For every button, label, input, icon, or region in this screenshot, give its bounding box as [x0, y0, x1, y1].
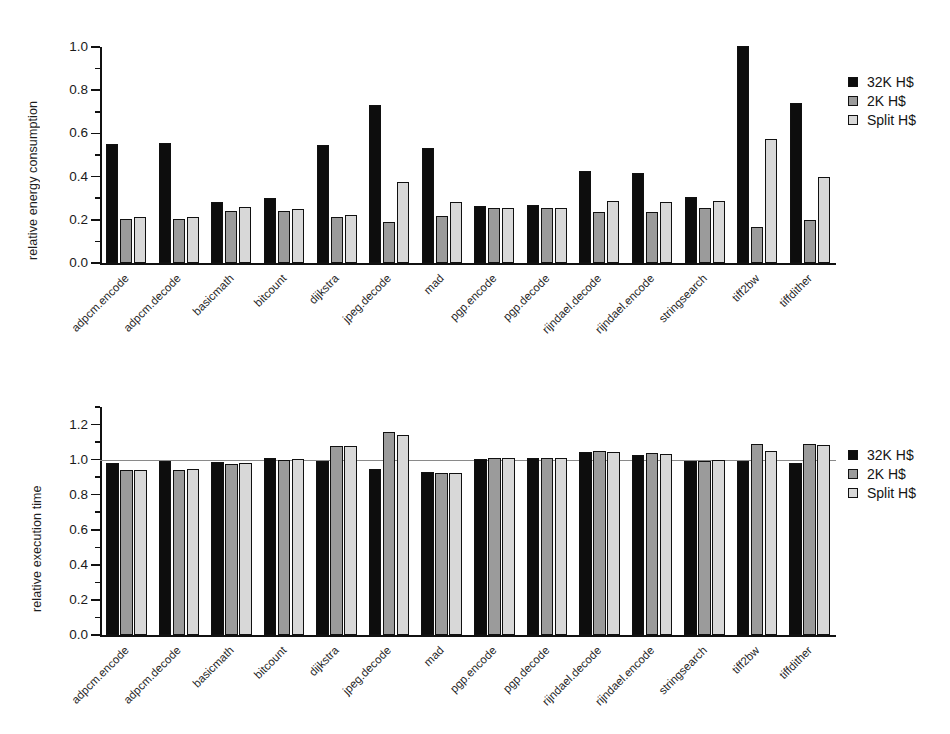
bar-group: [573, 407, 626, 635]
bar: [765, 451, 778, 635]
panel-relative-execution-time: relative execution time 0.00.20.40.60.81…: [0, 367, 950, 734]
bar: [330, 446, 343, 635]
bar: [422, 148, 434, 263]
x-tick-label: tiff2bw: [730, 272, 762, 304]
x-tick-label: bitcount: [252, 272, 289, 309]
bar: [345, 215, 357, 263]
bar: [555, 208, 567, 263]
y-tick-label: 0.8: [69, 83, 88, 97]
bar: [292, 209, 304, 263]
bar: [803, 444, 816, 635]
bar-group: [205, 407, 258, 635]
legend-label-32k: 32K H$: [867, 74, 914, 90]
x-tick-label: tiff2bw: [730, 644, 762, 676]
bar: [502, 208, 514, 263]
bar: [488, 458, 501, 635]
bar: [450, 202, 462, 263]
bar: [421, 472, 434, 635]
y-tick-label: 0.6: [69, 127, 88, 141]
bar: [316, 461, 329, 635]
bar: [187, 469, 200, 635]
bar: [698, 461, 711, 636]
plot-area-time: 0.00.20.40.60.81.01.2: [100, 407, 836, 635]
bar: [607, 201, 619, 263]
y-tick-label: 0.0: [69, 628, 88, 642]
bar: [106, 463, 119, 635]
legend-time: 32K H$ 2K H$ Split H$: [848, 445, 916, 502]
bar: [474, 459, 487, 635]
x-tick-label: stringsearch: [656, 644, 709, 697]
bar: [134, 217, 146, 263]
bar: [632, 455, 645, 635]
bar: [555, 458, 568, 635]
bar-group: [100, 47, 153, 263]
bar: [239, 207, 251, 263]
y-tick-label: 1.0: [69, 453, 88, 467]
y-tick-major: [91, 634, 100, 636]
bar: [527, 458, 540, 635]
bar: [579, 452, 592, 635]
y-tick-major: [91, 424, 100, 426]
bar: [632, 173, 644, 263]
y-axis-title-energy: relative energy consumption: [26, 55, 40, 260]
x-tick-label: pgp.encode: [448, 272, 499, 323]
bar: [211, 462, 224, 635]
bar-group: [415, 407, 468, 635]
bar: [660, 202, 672, 263]
bar: [646, 212, 658, 263]
y-tick-label: 0.4: [69, 558, 88, 572]
bar: [120, 470, 133, 635]
legend-label-32k: 32K H$: [867, 447, 914, 463]
x-tick-label: adpcm.decode: [121, 272, 183, 334]
bar: [474, 206, 486, 263]
bar-group: [783, 47, 836, 263]
legend-swatch-split-icon: [848, 488, 858, 498]
bar: [383, 432, 396, 635]
bar-group: [731, 47, 784, 263]
bar: [383, 222, 395, 263]
bar: [344, 446, 357, 635]
bar: [173, 219, 185, 263]
y-tick-major: [91, 459, 100, 461]
x-tick-label: pgp.decode: [500, 272, 551, 323]
y-tick-label: 0.8: [69, 488, 88, 502]
bar: [239, 463, 252, 635]
legend-swatch-split-icon: [848, 115, 858, 125]
y-tick-label: 1.2: [69, 418, 88, 432]
bar: [225, 211, 237, 263]
bar-group: [153, 47, 206, 263]
bar: [449, 473, 462, 635]
y-tick-major: [91, 599, 100, 601]
x-axis-line-time: [100, 635, 836, 637]
bar: [685, 197, 697, 263]
y-tick-label: 0.4: [69, 170, 88, 184]
bar: [699, 208, 711, 263]
y-tick-major: [91, 46, 100, 48]
bar: [789, 463, 802, 635]
bar: [502, 458, 515, 635]
bar: [120, 219, 132, 263]
x-tick-label: pgp.encode: [448, 644, 499, 695]
bar: [264, 458, 277, 635]
bar: [278, 211, 290, 263]
bar-group: [310, 47, 363, 263]
bar-group: [626, 407, 679, 635]
x-tick-label: jpeg.decode: [341, 644, 394, 697]
bar: [159, 461, 172, 636]
bar: [790, 103, 802, 263]
bar: [397, 435, 410, 635]
bar-group: [573, 47, 626, 263]
bar-group: [678, 407, 731, 635]
bar: [818, 177, 830, 263]
y-tick-major: [91, 133, 100, 135]
bar: [488, 208, 500, 263]
legend-item-2k: 2K H$: [848, 464, 916, 483]
bar: [541, 208, 553, 263]
bar-group: [205, 47, 258, 263]
x-tick-label: tiffdither: [777, 644, 814, 681]
bar-group: [468, 407, 521, 635]
legend-item-2k: 2K H$: [848, 91, 916, 110]
y-tick-major: [91, 89, 100, 91]
bar: [173, 470, 186, 635]
plot-area-energy: 0.00.20.40.60.81.0: [100, 47, 836, 263]
